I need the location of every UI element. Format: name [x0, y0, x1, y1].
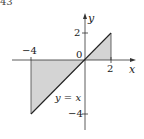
- y-axis-label: y: [88, 13, 94, 24]
- x-tick-label-2: 2: [107, 64, 113, 74]
- origin-label: 0: [76, 50, 82, 60]
- x-tick-label-neg4: −4: [22, 46, 37, 56]
- y-axis-arrow-icon: [83, 13, 87, 19]
- y-tick-label-2: 2: [74, 28, 80, 38]
- x-axis-label: x: [129, 64, 135, 75]
- line-label: y = x: [55, 93, 81, 103]
- y-tick-label-neg4: −4: [68, 109, 83, 119]
- x-axis-arrow-icon: [130, 58, 136, 62]
